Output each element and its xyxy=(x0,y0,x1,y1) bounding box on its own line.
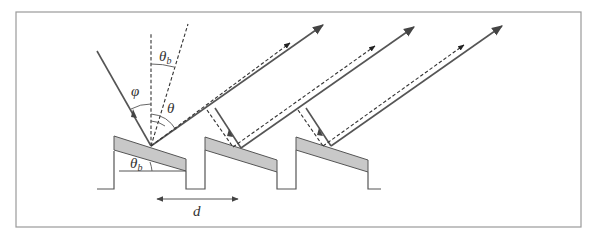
grating-facet-3 xyxy=(296,137,368,172)
specular-ray-1 xyxy=(151,43,290,146)
groove-wall-2 xyxy=(277,150,296,189)
grating-base-left xyxy=(97,151,114,189)
grating-base-right xyxy=(368,172,381,189)
specular-ray-3 xyxy=(323,45,464,146)
specular-ray-2 xyxy=(233,46,375,147)
blazed-grating-diagram: θb d φ θ θb xyxy=(0,0,595,240)
blaze-angle-label-upper: θb xyxy=(159,48,171,66)
groove-wall-1 xyxy=(186,150,205,189)
incident-ray xyxy=(97,51,151,146)
theta-label: θ xyxy=(167,100,175,116)
blaze-angle-arc-lower xyxy=(150,162,152,171)
grating-facet-1 xyxy=(114,136,186,171)
phi-angle-arc xyxy=(131,104,151,109)
grating-facet-2 xyxy=(205,137,277,172)
figure-frame xyxy=(16,12,581,227)
theta-angle-arc-outer xyxy=(151,114,176,130)
diffracted-ray-2 xyxy=(241,27,414,148)
phi-label: φ xyxy=(131,83,139,99)
incident-ray-arrowhead xyxy=(131,109,137,118)
diffracted-ray-1 xyxy=(151,25,323,146)
diffracted-ray-3 xyxy=(331,26,502,146)
period-label: d xyxy=(193,203,201,219)
facet-normal xyxy=(151,24,188,146)
